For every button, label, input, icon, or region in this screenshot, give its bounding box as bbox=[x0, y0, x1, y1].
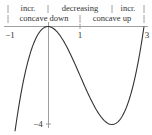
y-label-minus4: −4 bbox=[33, 119, 43, 129]
label-decreasing: decreasing bbox=[62, 3, 99, 13]
x-label-1: 1 bbox=[78, 30, 83, 40]
graph-canvas: incr. decreasing incr. concave down conc… bbox=[0, 0, 152, 135]
x-label-3: 3 bbox=[145, 30, 150, 40]
x-label-minus1: −1 bbox=[5, 30, 15, 40]
label-concave-up: concave up bbox=[93, 13, 131, 23]
cubic-curve bbox=[15, 27, 144, 132]
label-concave-down: concave down bbox=[20, 13, 70, 23]
label-increasing-left: incr. bbox=[21, 3, 36, 13]
label-increasing-right: incr. bbox=[121, 3, 136, 13]
